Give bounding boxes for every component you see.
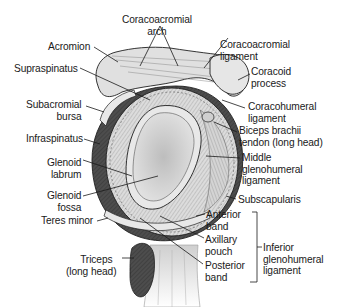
label-coracoid-process: Coracoid process	[251, 66, 291, 89]
label-subacromial-bursa: Subacromial bursa	[26, 99, 82, 122]
label-acromion: Acromion	[48, 41, 90, 53]
label-teres-minor: Teres minor	[41, 215, 93, 227]
label-glenoid-fossa: Glenoid fossa	[47, 190, 81, 213]
label-coracoacromial-arch: Coracoacromial arch	[122, 14, 192, 37]
label-triceps: Triceps (long head)	[66, 254, 116, 277]
label-inferior-glenohumeral-ligament: Inferior glenohumeral ligament	[263, 242, 324, 277]
label-axillary-pouch: Axillary pouch	[205, 234, 237, 257]
label-middle-glenohumeral-ligament: Middle glenohumeral ligament	[242, 152, 303, 187]
label-coracohumeral-ligament: Coracohumeral ligament	[248, 101, 316, 124]
label-posterior-band: Posterior band	[205, 260, 245, 283]
label-supraspinatus: Supraspinatus	[14, 63, 78, 75]
label-anterior-band: Anterior band	[206, 209, 241, 232]
label-subscapularis: Subscapularis	[238, 194, 301, 206]
label-infraspinatus: Infraspinatus	[26, 133, 83, 145]
label-glenoid-labrum: Glenoid labrum	[47, 157, 81, 180]
label-biceps-brachii-tendon: Biceps brachii tendon (long head)	[239, 125, 323, 148]
label-coracoacromial-ligament: Coracoacromial ligament	[220, 39, 290, 62]
biceps-tendon-shape	[202, 112, 214, 122]
